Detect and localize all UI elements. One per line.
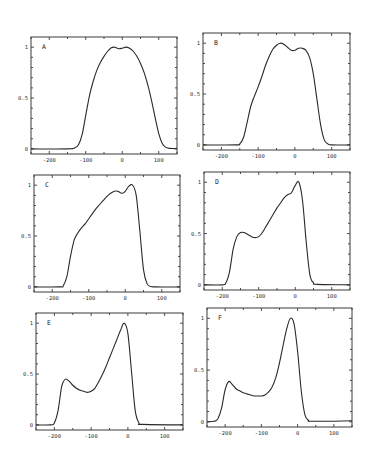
x-tick-label: -200 (216, 293, 229, 299)
y-tick-label: 0.5 (190, 91, 200, 97)
x-tick-label: 0 (126, 433, 129, 439)
y-tick-label: 0 (201, 419, 204, 425)
y-tick-label: 1 (201, 315, 204, 321)
series-line (207, 318, 352, 422)
panel-c: -200-100010000.51C (21, 175, 180, 301)
x-tick-label: 0 (293, 153, 296, 159)
x-tick-label: -100 (252, 293, 265, 299)
panel-b: -200-100010000.51B (190, 33, 350, 159)
y-tick-label: 1 (198, 179, 201, 185)
series-line (203, 43, 350, 145)
x-tick-label: -100 (255, 430, 268, 436)
x-tick-label: 0 (121, 157, 124, 163)
panel-a: -200-100010000.51A (18, 37, 177, 163)
x-tick-label: 100 (157, 295, 167, 301)
y-tick-label: 0 (198, 282, 201, 288)
y-tick-label: 0 (30, 422, 33, 428)
plot-frame (34, 175, 180, 292)
plot-frame (204, 172, 350, 290)
y-tick-label: 1 (30, 320, 33, 326)
y-tick-label: 1 (197, 40, 200, 46)
y-tick-label: 0 (25, 146, 28, 152)
x-tick-label: 0 (124, 295, 127, 301)
y-tick-label: 0 (197, 142, 200, 148)
plot-frame (207, 308, 352, 427)
y-tick-label: 1 (25, 44, 28, 50)
x-tick-label: -200 (219, 430, 232, 436)
x-tick-label: -100 (252, 153, 265, 159)
panel-d: -200-100010000.51D (191, 172, 350, 299)
panel-label: C (45, 181, 49, 189)
x-tick-label: 100 (160, 433, 170, 439)
panel-label: B (214, 39, 218, 47)
y-tick-label: 0.5 (18, 95, 28, 101)
x-tick-label: -100 (79, 157, 92, 163)
panel-f: -200-100010000.51F (194, 308, 352, 436)
panel-label: D (215, 178, 219, 186)
x-tick-label: -100 (82, 295, 95, 301)
panel-e: -200-100010000.51E (23, 313, 183, 439)
panel-label: F (218, 314, 222, 322)
x-tick-label: 100 (329, 430, 339, 436)
x-tick-label: -100 (85, 433, 98, 439)
x-tick-label: -200 (215, 153, 228, 159)
plot-frame (203, 33, 350, 150)
y-tick-label: 0 (28, 284, 31, 290)
x-tick-label: 100 (327, 153, 337, 159)
x-tick-label: 0 (296, 430, 299, 436)
y-tick-label: 0.5 (194, 367, 204, 373)
x-tick-label: 100 (154, 157, 164, 163)
y-tick-label: 1 (28, 182, 31, 188)
x-tick-label: 100 (327, 293, 337, 299)
series-line (36, 323, 183, 425)
figure-canvas: -200-100010000.51A -200-100010000.51B -2… (0, 0, 371, 464)
panel-label: E (47, 319, 51, 327)
x-tick-label: -200 (43, 157, 56, 163)
series-line (31, 47, 177, 149)
panel-label: A (42, 43, 46, 51)
x-tick-label: -200 (46, 295, 59, 301)
x-tick-label: -200 (48, 433, 61, 439)
x-tick-label: 0 (294, 293, 297, 299)
plot-frame (31, 37, 177, 154)
y-tick-label: 0.5 (21, 233, 31, 239)
y-tick-label: 0.5 (191, 231, 201, 237)
y-tick-label: 0.5 (23, 371, 33, 377)
series-line (204, 181, 350, 285)
series-line (34, 185, 180, 287)
